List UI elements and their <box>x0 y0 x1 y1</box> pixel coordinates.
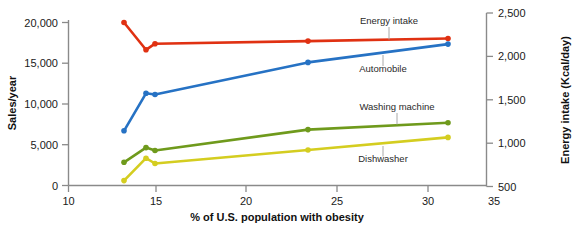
series-label-energy-intake: Energy intake <box>360 15 418 26</box>
data-point <box>305 147 311 153</box>
right-tick-label-500: 500 <box>498 181 516 193</box>
series-energy-intake: Energy intake <box>121 15 451 53</box>
data-point <box>152 41 158 47</box>
data-point <box>445 120 451 126</box>
left-tick-label-10000: 10,000 <box>24 98 58 110</box>
x-axis-group: 10 15 20 25 30 35 % of U.S. population w… <box>62 186 500 224</box>
data-point <box>445 41 451 47</box>
data-point <box>121 178 127 184</box>
series-line-energy-intake <box>124 23 448 50</box>
right-tick-label-2500: 2,500 <box>498 7 526 19</box>
x-tick-label-15: 15 <box>150 195 162 207</box>
data-point <box>143 47 149 53</box>
data-point <box>305 38 311 44</box>
right-tick-label-1000: 1,000 <box>498 137 526 149</box>
series-automobile: Automobile <box>121 41 451 133</box>
left-tick-label-5000: 5,000 <box>30 139 58 151</box>
obesity-sales-line-chart: 20,000 15,000 10,000 5,000 0 Sales/year … <box>0 0 585 225</box>
x-tick-label-30: 30 <box>422 195 434 207</box>
data-point <box>143 145 149 151</box>
data-point <box>305 60 311 66</box>
data-point <box>445 135 451 141</box>
x-axis-title: % of U.S. population with obesity <box>190 211 364 223</box>
y-axis-title: Sales/year <box>6 75 18 130</box>
data-point <box>121 160 127 166</box>
data-point <box>121 128 127 134</box>
left-tick-label-15000: 15,000 <box>24 57 58 69</box>
chart-canvas: 20,000 15,000 10,000 5,000 0 Sales/year … <box>0 0 585 225</box>
series-label-dishwasher: Dishwasher <box>358 153 408 164</box>
data-point <box>305 127 311 133</box>
left-axis-group: 20,000 15,000 10,000 5,000 0 Sales/year <box>6 17 69 192</box>
data-point <box>143 155 149 161</box>
x-tick-label-20: 20 <box>240 195 252 207</box>
left-tick-label-20000: 20,000 <box>24 17 58 29</box>
right-tick-label-2000: 2,000 <box>498 50 526 62</box>
right-axis-group: 2,500 2,000 1,500 1,000 500 Energy intak… <box>487 7 572 193</box>
series-label-automobile: Automobile <box>359 63 407 74</box>
data-point <box>152 148 158 154</box>
data-point <box>121 20 127 26</box>
right-tick-label-1500: 1,500 <box>498 94 526 106</box>
data-point <box>152 161 158 167</box>
series-dishwasher: Dishwasher <box>121 135 451 184</box>
x-tick-label-25: 25 <box>331 195 343 207</box>
y2-axis-title: Energy intake (Kcal/day) <box>559 36 571 164</box>
data-point <box>143 91 149 97</box>
x-tick-label-10: 10 <box>62 195 74 207</box>
series-line-automobile <box>124 44 448 131</box>
data-point <box>152 92 158 98</box>
x-tick-label-35: 35 <box>488 195 500 207</box>
series-label-washing-machine: Washing machine <box>359 101 434 112</box>
data-point <box>445 36 451 42</box>
left-tick-label-0: 0 <box>52 180 58 192</box>
